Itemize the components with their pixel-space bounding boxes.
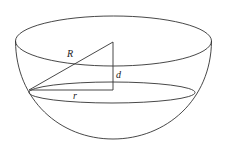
rim-ellipse (16, 16, 212, 66)
water-level-ellipse (29, 82, 195, 103)
label-R: R (66, 48, 73, 59)
bowl-diagram: R d r (0, 0, 228, 149)
label-r: r (73, 90, 77, 101)
label-d: d (116, 69, 122, 80)
